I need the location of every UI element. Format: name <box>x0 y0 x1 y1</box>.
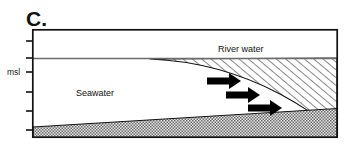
figure-container: C. msl River water Seawater <box>0 0 347 152</box>
river-water-label: River water <box>218 44 264 54</box>
seawater-label: Seawater <box>76 88 114 98</box>
msl-axis-label: msl <box>7 67 20 77</box>
salt-wedge-estuary-diagram: C. msl River water Seawater <box>0 0 347 152</box>
panel-letter: C. <box>26 7 47 30</box>
